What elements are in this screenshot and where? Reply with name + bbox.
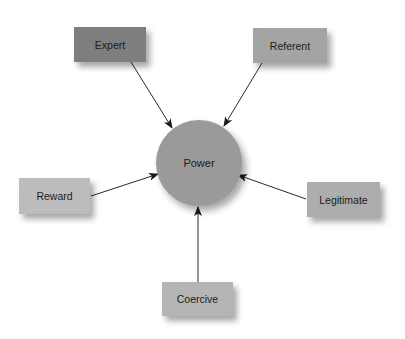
reward-label: Reward (36, 190, 72, 202)
coercive-label: Coercive (177, 293, 218, 305)
referent-label: Referent (270, 40, 310, 52)
coercive-node: Coercive (162, 282, 233, 316)
reward-node: Reward (19, 178, 90, 214)
reward-to-power-arrow (91, 174, 158, 196)
legitimate-node: Legitimate (307, 182, 380, 217)
legitimate-label: Legitimate (319, 194, 367, 206)
expert-label: Expert (95, 39, 125, 51)
power-label: Power (183, 157, 214, 169)
expert-node: Expert (74, 27, 146, 62)
legitimate-to-power-arrow (238, 175, 306, 199)
power-diagram: Power Expert Referent Reward Legitimate … (0, 0, 405, 339)
power-node: Power (156, 120, 242, 206)
expert-to-power-arrow (131, 62, 172, 128)
referent-node: Referent (253, 28, 327, 63)
referent-to-power-arrow (224, 63, 262, 126)
